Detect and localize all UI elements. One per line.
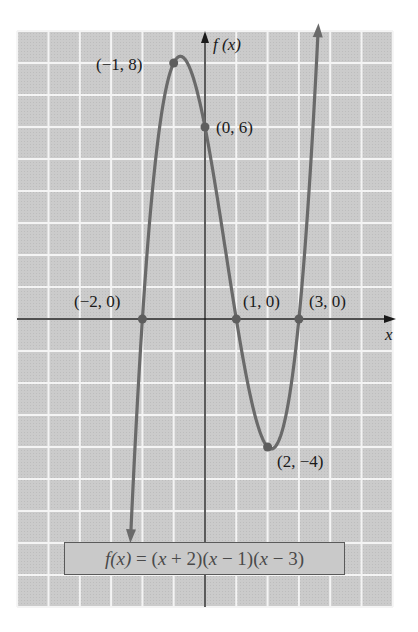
- x-axis-label: x: [384, 325, 393, 344]
- formula-part-d: − 3): [268, 548, 304, 570]
- point-label-max: (−1, 8): [96, 55, 142, 74]
- y-axis-label-paren: (x): [222, 35, 241, 54]
- formula-x1: (x): [110, 548, 131, 570]
- key-point-dot: [201, 123, 210, 132]
- key-point-dot: [138, 315, 147, 324]
- formula-x2: x: [158, 548, 166, 570]
- function-graph: f (x) x (−1, 8) (0, 6) (−2, 0) (1, 0) (3…: [0, 0, 418, 632]
- formula-part-b: + 2)(: [166, 548, 208, 570]
- key-point-dot: [169, 59, 178, 68]
- key-point-dot: [294, 315, 303, 324]
- formula-x3: x: [209, 548, 217, 570]
- key-point-dot: [263, 443, 272, 452]
- formula-part-a: = (: [131, 548, 158, 570]
- function-formula-box: f(x) = (x + 2)(x − 1)(x − 3): [64, 542, 345, 575]
- formula-part-c: − 1)(: [217, 548, 259, 570]
- point-label-y-intercept: (0, 6): [216, 118, 253, 137]
- formula-x4: x: [260, 548, 268, 570]
- point-label-root-neg2: (−2, 0): [74, 292, 120, 311]
- key-point-dot: [232, 315, 241, 324]
- point-label-min: (2, −4): [277, 452, 323, 471]
- point-label-root-3: (3, 0): [309, 292, 346, 311]
- point-label-root-1: (1, 0): [243, 292, 280, 311]
